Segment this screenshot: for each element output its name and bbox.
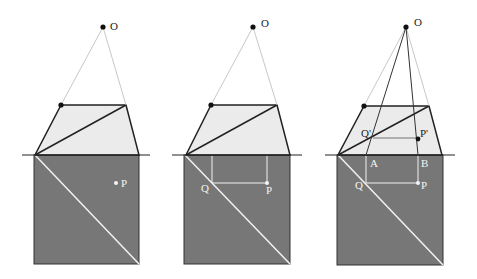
panel-2: O Q P	[172, 17, 302, 264]
label-b: B	[421, 157, 428, 169]
vertex-dot	[58, 102, 63, 107]
eye-point-dot	[250, 24, 255, 29]
sight-line-left	[211, 27, 253, 105]
point-p-dot	[114, 181, 118, 185]
label-a: A	[370, 157, 378, 169]
perspective-construction-diagram: O P O Q P O Q' P'	[0, 0, 477, 279]
label-p-prime: P'	[420, 127, 428, 139]
eye-point-dot	[403, 24, 408, 29]
label-o: O	[110, 20, 118, 32]
label-p: P	[121, 177, 127, 189]
eye-point-dot	[100, 24, 105, 29]
sight-line-right	[103, 27, 126, 105]
label-p: P	[266, 184, 272, 196]
panel-1: O P	[22, 20, 150, 264]
label-o: O	[261, 17, 269, 29]
label-p: P	[421, 179, 427, 191]
point-p-dot	[416, 181, 420, 185]
label-q: Q	[201, 182, 209, 194]
label-o: O	[414, 16, 422, 28]
label-q-prime: Q'	[361, 127, 371, 139]
panel-3: O Q' P' A B Q P	[325, 16, 455, 265]
vertex-dot	[208, 102, 213, 107]
vertex-dot	[361, 103, 366, 108]
sight-line-left	[61, 27, 103, 105]
perspective-trapezoid	[186, 105, 290, 155]
sight-line-right	[253, 27, 277, 105]
label-q: Q	[355, 179, 363, 191]
perspective-trapezoid	[35, 105, 139, 155]
